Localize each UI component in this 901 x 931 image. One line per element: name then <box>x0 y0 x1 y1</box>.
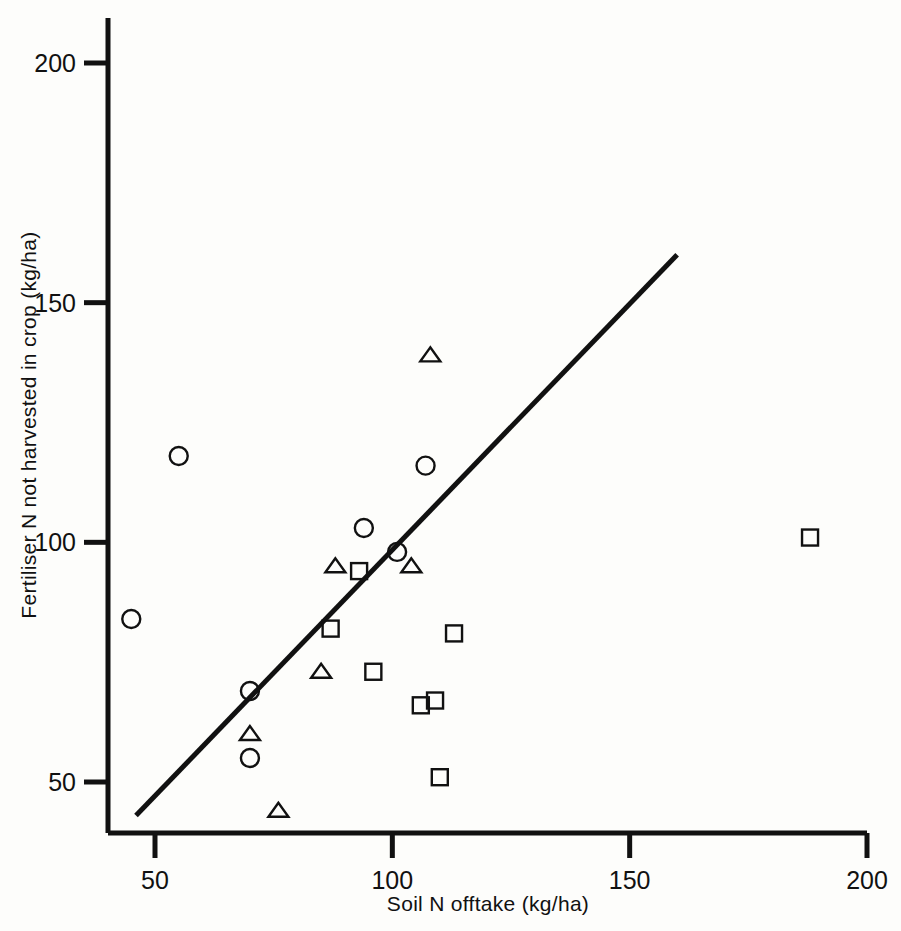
chart-svg: 50100150200 50100150200 Soil N offtake (… <box>0 0 901 931</box>
y-axis-ticks <box>84 63 108 782</box>
y-tick-label-100: 100 <box>34 528 76 556</box>
y-axis-group: 50100150200 <box>34 18 108 833</box>
data-point-square <box>446 625 462 641</box>
x-tick-label-100: 100 <box>371 866 413 894</box>
data-point-circle <box>355 519 373 537</box>
data-point-triangle <box>240 726 260 740</box>
trend-line <box>136 255 677 816</box>
x-axis-tick-labels: 50100150200 <box>141 866 888 894</box>
data-point-circle <box>241 749 259 767</box>
data-point-triangle <box>311 664 331 678</box>
y-axis-tick-labels: 50100150200 <box>34 49 76 796</box>
x-tick-label-200: 200 <box>846 866 888 894</box>
data-point-circle <box>170 447 188 465</box>
data-point-circle <box>417 457 435 475</box>
data-point-triangle <box>325 558 345 572</box>
data-point-triangle <box>401 558 421 572</box>
data-point-triangle <box>420 347 440 361</box>
x-tick-label-150: 150 <box>609 866 651 894</box>
y-tick-label-150: 150 <box>34 289 76 317</box>
data-point-triangle <box>268 803 288 817</box>
data-point-square <box>365 664 381 680</box>
x-axis-ticks <box>155 833 867 858</box>
scatter-chart-figure: 50100150200 50100150200 Soil N offtake (… <box>0 0 901 931</box>
x-tick-label-50: 50 <box>141 866 169 894</box>
data-point-square <box>802 530 818 546</box>
data-point-circle <box>122 610 140 628</box>
y-tick-label-50: 50 <box>48 768 76 796</box>
y-tick-label-200: 200 <box>34 49 76 77</box>
y-axis-label: Fertiliser N not harvested in crop (kg/h… <box>17 231 40 618</box>
x-axis-group: 50100150200 <box>108 833 888 894</box>
x-axis-label: Soil N offtake (kg/ha) <box>387 892 589 915</box>
data-point-square <box>432 769 448 785</box>
data-markers-group <box>122 347 818 816</box>
